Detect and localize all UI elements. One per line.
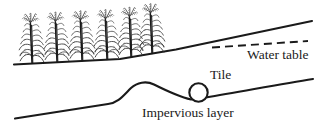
tile-label: Tile	[210, 68, 231, 82]
impervious-layer-label: Impervious layer	[142, 106, 234, 120]
tile-drain-circle	[189, 83, 207, 101]
drainage-diagram: Water table Tile Impervious layer	[0, 0, 334, 139]
water-table-label: Water table	[247, 48, 309, 62]
